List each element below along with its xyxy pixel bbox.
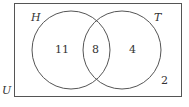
h-only-value: 11 <box>55 43 69 56</box>
intersection-value: 8 <box>92 43 99 56</box>
outside-value: 2 <box>161 74 168 87</box>
t-only-value: 4 <box>129 43 136 56</box>
set-t-label: T <box>154 11 161 24</box>
universe-label: U <box>2 84 11 97</box>
set-h-label: H <box>31 11 41 24</box>
